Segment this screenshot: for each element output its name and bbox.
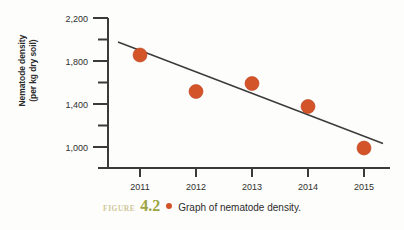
y-tick-label-1000: 1,000	[65, 143, 88, 153]
data-point-2011[interactable]	[133, 48, 147, 62]
y-axis-tick-labels: 2,200 1,800 1,400 1,000	[65, 14, 88, 153]
figure-caption: Figure 4.2 Graph of nematode density.	[0, 198, 404, 214]
figure-label-word: Figure	[103, 204, 135, 213]
x-axis-tick-labels: 2011 2012 2013 2014 2015	[130, 182, 374, 192]
data-point-2012[interactable]	[189, 85, 203, 99]
data-point-markers	[133, 48, 371, 155]
data-point-2015[interactable]	[357, 141, 371, 155]
y-tick-label-2200: 2,200	[65, 14, 88, 24]
x-tick-label-2014: 2014	[298, 182, 318, 192]
figure-caption-text: Graph of nematode density.	[178, 202, 301, 213]
chart-plot-area: Nematode density (per kg dry soil)	[0, 0, 404, 195]
linear-trend-line	[118, 42, 383, 144]
figure-container: Nematode density (per kg dry soil)	[0, 0, 404, 230]
orange-dot-icon	[166, 203, 172, 209]
x-tick-label-2012: 2012	[186, 182, 206, 192]
figure-number: 4.2	[140, 198, 160, 214]
data-point-2014[interactable]	[301, 100, 315, 114]
x-tick-label-2013: 2013	[242, 182, 262, 192]
y-tick-label-1800: 1,800	[65, 57, 88, 67]
x-tick-label-2015: 2015	[354, 182, 374, 192]
data-point-2013[interactable]	[245, 77, 259, 91]
x-axis-ticks	[140, 168, 364, 177]
x-tick-label-2011: 2011	[130, 182, 149, 192]
y-tick-label-1400: 1,400	[65, 100, 88, 110]
chart-svg: 2,200 1,800 1,400 1,000 2011 2012 2013 2…	[0, 0, 404, 195]
